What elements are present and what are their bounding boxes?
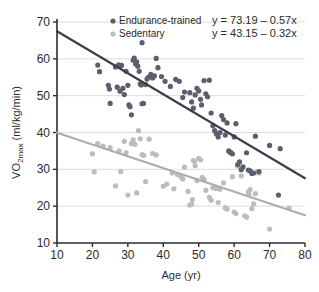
data-point-sedentary [90, 151, 95, 156]
scatter-plot-svg: 1020304050607080 10203040506070 Enduranc… [0, 0, 319, 292]
data-point-endurance [127, 104, 132, 109]
data-point-sedentary [190, 197, 195, 202]
regression-line-endurance-path [57, 31, 305, 178]
data-point-endurance [276, 193, 281, 198]
data-point-endurance [240, 164, 245, 169]
y-tick-label-40: 40 [37, 126, 51, 140]
data-point-sedentary [180, 176, 185, 181]
data-point-endurance [256, 169, 261, 174]
data-point-endurance [141, 101, 146, 106]
data-point-sedentary [125, 193, 130, 198]
data-point-sedentary [239, 173, 244, 178]
data-point-sedentary [131, 137, 136, 142]
data-point-endurance [159, 74, 164, 79]
data-point-endurance [97, 69, 102, 74]
data-point-endurance [134, 59, 139, 64]
data-point-sedentary [136, 128, 141, 133]
x-tick-label-60: 60 [227, 248, 241, 262]
data-point-sedentary [141, 153, 146, 158]
data-points-sedentary [90, 128, 292, 232]
data-point-endurance [201, 78, 206, 83]
data-point-endurance [224, 120, 229, 125]
data-point-sedentary [209, 198, 214, 203]
x-tick-label-40: 40 [157, 248, 171, 262]
data-point-endurance [177, 79, 182, 84]
data-point-endurance [155, 65, 160, 70]
data-point-sedentary [192, 159, 197, 164]
data-point-sedentary [249, 206, 254, 211]
data-point-sedentary [92, 169, 97, 174]
data-point-endurance [205, 94, 210, 99]
y-tick-label-50: 50 [37, 89, 51, 103]
data-point-endurance [135, 64, 140, 69]
data-point-endurance [216, 134, 221, 139]
data-point-sedentary [189, 202, 194, 207]
data-point-sedentary [221, 180, 226, 185]
data-point-endurance [168, 84, 173, 89]
legend-marker-endurance [110, 18, 115, 23]
data-point-endurance [182, 89, 187, 94]
data-point-sedentary [267, 226, 272, 231]
equation-sedentary: y = 43.15 – 0.32x [212, 27, 297, 39]
x-tick-label-70: 70 [263, 248, 277, 262]
x-tick-label-10: 10 [50, 248, 64, 262]
axis-titles: Age (yr)VO2max (ml/kg/min) [10, 86, 201, 281]
data-point-sedentary [233, 211, 238, 216]
data-point-endurance [230, 151, 235, 156]
x-tick-label-80: 80 [298, 248, 312, 262]
regression-line-endurance [57, 31, 305, 178]
y-tick-label-10: 10 [37, 236, 51, 250]
data-point-endurance [139, 40, 144, 45]
data-point-endurance [207, 78, 212, 83]
data-point-endurance [187, 90, 192, 95]
data-point-sedentary [216, 200, 221, 205]
data-point-sedentary [138, 136, 143, 141]
data-point-sedentary [185, 189, 190, 194]
x-axis-ticks: 1020304050607080 [50, 243, 312, 262]
data-point-endurance [196, 88, 201, 93]
data-point-endurance [120, 86, 125, 91]
data-point-sedentary [193, 163, 198, 168]
data-point-endurance [233, 121, 238, 126]
y-axis-title: VO2max (ml/kg/min) [10, 86, 25, 179]
data-point-endurance [217, 130, 222, 135]
data-point-sedentary [244, 215, 249, 220]
data-point-sedentary [251, 201, 256, 206]
data-point-sedentary [230, 174, 235, 179]
data-point-endurance [125, 83, 130, 88]
y-tick-label-30: 30 [37, 162, 51, 176]
data-point-endurance [237, 159, 242, 164]
x-tick-label-20: 20 [86, 248, 100, 262]
data-point-sedentary [164, 181, 169, 186]
x-tick-label-30: 30 [121, 248, 135, 262]
data-point-endurance [199, 102, 204, 107]
data-point-endurance [278, 146, 283, 151]
data-point-endurance [107, 86, 112, 91]
data-point-sedentary [198, 157, 203, 162]
data-point-endurance [108, 101, 113, 106]
data-point-endurance [244, 150, 249, 155]
y-tick-label-70: 70 [37, 15, 51, 29]
data-point-sedentary [182, 165, 187, 170]
data-point-sedentary [113, 183, 118, 188]
data-point-sedentary [122, 139, 127, 144]
data-point-endurance [267, 143, 272, 148]
data-point-endurance [95, 63, 100, 68]
data-point-sedentary [143, 179, 148, 184]
data-point-endurance [162, 79, 167, 84]
equation-endurance: y = 73.19 – 0.57x [212, 14, 297, 26]
data-point-endurance [137, 69, 142, 74]
data-point-endurance [193, 92, 198, 97]
legend-marker-sedentary [110, 31, 115, 36]
data-point-endurance [152, 73, 157, 78]
legend-label-endurance: Endurance-trained [119, 15, 201, 26]
data-point-sedentary [171, 186, 176, 191]
data-point-endurance [129, 112, 134, 117]
data-point-endurance [154, 56, 159, 61]
data-point-sedentary [224, 207, 229, 212]
data-point-sedentary [134, 190, 139, 195]
chart-container: 1020304050607080 10203040506070 Enduranc… [0, 0, 319, 292]
data-point-endurance [198, 97, 203, 102]
data-points-endurance [95, 40, 283, 198]
y-axis-ticks: 10203040506070 [37, 15, 57, 250]
